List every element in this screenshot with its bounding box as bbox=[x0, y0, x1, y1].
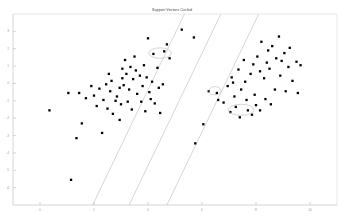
data-point bbox=[227, 85, 229, 87]
data-point bbox=[101, 132, 103, 134]
data-point bbox=[239, 116, 241, 118]
data-point bbox=[235, 106, 237, 108]
data-point bbox=[283, 52, 285, 54]
data-point bbox=[154, 102, 156, 104]
data-points bbox=[48, 28, 301, 180]
data-point bbox=[297, 92, 299, 94]
data-point bbox=[259, 70, 261, 72]
data-point bbox=[81, 122, 83, 124]
data-point bbox=[202, 123, 204, 125]
data-point bbox=[243, 59, 245, 61]
data-point bbox=[121, 68, 123, 70]
data-point bbox=[98, 88, 100, 90]
data-point bbox=[112, 113, 114, 115]
data-point bbox=[93, 94, 95, 96]
data-point bbox=[231, 76, 233, 78]
data-point bbox=[264, 98, 266, 100]
x-axis-ticks bbox=[40, 202, 310, 205]
data-point bbox=[119, 119, 121, 121]
data-point bbox=[275, 57, 277, 59]
data-point bbox=[252, 63, 254, 65]
data-point bbox=[247, 109, 249, 111]
data-point bbox=[90, 85, 92, 87]
data-point bbox=[132, 78, 134, 80]
data-point bbox=[279, 74, 281, 76]
data-point bbox=[70, 179, 72, 181]
data-point bbox=[139, 74, 141, 76]
data-point bbox=[285, 90, 287, 92]
support-vector-circle bbox=[149, 48, 172, 58]
data-point bbox=[85, 97, 87, 99]
data-point bbox=[232, 81, 234, 83]
data-point bbox=[240, 88, 242, 90]
data-point bbox=[152, 53, 154, 55]
data-point bbox=[123, 84, 125, 86]
data-point bbox=[249, 73, 251, 75]
data-point bbox=[119, 87, 121, 89]
data-point bbox=[181, 28, 183, 30]
data-point bbox=[255, 104, 257, 106]
data-point bbox=[48, 109, 50, 111]
support-vector-circle bbox=[228, 104, 254, 115]
data-point bbox=[271, 45, 273, 47]
scatter-plot-canvas bbox=[0, 0, 344, 221]
decision-boundary bbox=[129, 14, 221, 205]
data-point bbox=[78, 92, 80, 94]
data-point bbox=[135, 69, 137, 71]
data-point bbox=[237, 68, 239, 70]
data-point bbox=[266, 61, 268, 63]
data-point bbox=[254, 94, 256, 96]
data-point bbox=[121, 77, 123, 79]
data-point bbox=[140, 101, 142, 103]
support-vector-circles bbox=[149, 48, 254, 116]
data-point bbox=[136, 93, 138, 95]
data-point bbox=[168, 57, 170, 59]
chart-figure: Support Vectors Circled 0246810-6-5-4-3-… bbox=[0, 0, 344, 221]
data-point bbox=[102, 99, 104, 101]
data-point bbox=[270, 103, 272, 105]
data-point bbox=[109, 90, 111, 92]
data-point bbox=[105, 83, 107, 85]
data-point bbox=[129, 66, 131, 68]
data-point bbox=[114, 100, 116, 102]
data-point bbox=[120, 103, 122, 105]
data-point bbox=[146, 76, 148, 78]
data-point bbox=[281, 60, 283, 62]
data-point bbox=[108, 73, 110, 75]
data-point bbox=[156, 67, 158, 69]
data-point bbox=[194, 142, 196, 144]
data-point bbox=[287, 66, 289, 68]
margin-upper bbox=[167, 14, 259, 205]
data-point bbox=[141, 85, 143, 87]
data-point bbox=[263, 77, 265, 79]
data-point bbox=[159, 112, 161, 114]
data-point bbox=[278, 35, 280, 37]
decision-boundary-lines bbox=[93, 14, 259, 205]
data-point bbox=[106, 107, 108, 109]
data-point bbox=[193, 36, 195, 38]
data-point bbox=[267, 49, 269, 51]
data-point bbox=[163, 50, 165, 52]
data-point bbox=[256, 55, 258, 57]
data-point bbox=[116, 95, 118, 97]
data-point bbox=[245, 99, 247, 101]
data-point bbox=[274, 88, 276, 90]
data-point bbox=[244, 81, 246, 83]
data-point bbox=[162, 83, 164, 85]
support-vector-circle bbox=[209, 87, 221, 95]
data-point bbox=[125, 73, 127, 75]
data-point bbox=[147, 37, 149, 39]
data-point bbox=[144, 110, 146, 112]
data-point bbox=[143, 64, 145, 66]
data-point bbox=[127, 101, 129, 103]
data-point bbox=[291, 80, 293, 82]
data-point bbox=[217, 99, 219, 101]
data-point bbox=[216, 92, 218, 94]
data-point bbox=[259, 109, 261, 111]
data-point bbox=[128, 88, 130, 90]
data-point bbox=[124, 59, 126, 61]
data-point bbox=[75, 137, 77, 139]
data-point bbox=[148, 91, 150, 93]
data-point bbox=[67, 92, 69, 94]
data-point bbox=[295, 61, 297, 63]
